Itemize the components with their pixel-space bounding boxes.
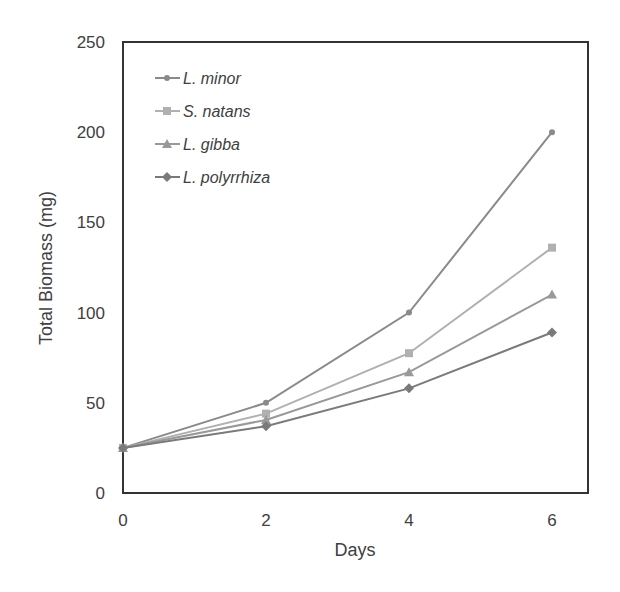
x-axis-label: Days — [334, 540, 375, 560]
y-tick-label: 50 — [86, 394, 105, 413]
triangle-marker-icon — [404, 367, 414, 376]
triangle-marker-icon — [547, 290, 557, 299]
x-tick-label: 0 — [118, 511, 127, 530]
series-line — [123, 248, 552, 448]
y-tick-label: 0 — [96, 484, 105, 503]
legend-label: L. polyrrhiza — [183, 169, 270, 186]
x-axis-ticks: 0246 — [118, 511, 556, 530]
diamond-marker-icon — [162, 172, 172, 182]
legend-label: L. minor — [183, 70, 241, 87]
series-s-natans — [119, 244, 556, 452]
legend-item: L. polyrrhiza — [155, 169, 270, 186]
legend-label: S. natans — [183, 103, 251, 120]
x-tick-label: 6 — [547, 511, 556, 530]
series-l-gibba — [118, 290, 557, 452]
line-chart: 050100150200250 0246 Days Total Biomass … — [0, 0, 620, 592]
circle-marker-icon — [549, 129, 555, 135]
y-tick-label: 100 — [77, 304, 105, 323]
square-marker-icon — [548, 244, 556, 252]
x-tick-label: 4 — [404, 511, 413, 530]
y-tick-label: 150 — [77, 213, 105, 232]
legend: L. minorS. natansL. gibbaL. polyrrhiza — [155, 70, 270, 186]
y-axis-ticks: 050100150200250 — [77, 33, 105, 503]
diamond-marker-icon — [547, 327, 557, 337]
legend-label: L. gibba — [183, 136, 240, 153]
series-line — [123, 295, 552, 448]
x-tick-label: 2 — [261, 511, 270, 530]
series-line — [123, 332, 552, 447]
legend-item: L. minor — [155, 70, 241, 87]
circle-marker-icon — [164, 75, 170, 81]
legend-item: S. natans — [155, 103, 251, 120]
diamond-marker-icon — [404, 383, 414, 393]
y-tick-label: 200 — [77, 123, 105, 142]
square-marker-icon — [405, 349, 413, 357]
circle-marker-icon — [263, 400, 269, 406]
square-marker-icon — [163, 107, 171, 115]
y-tick-label: 250 — [77, 33, 105, 52]
circle-marker-icon — [406, 310, 412, 316]
y-axis-label: Total Biomass (mg) — [36, 191, 56, 345]
legend-item: L. gibba — [155, 136, 240, 153]
